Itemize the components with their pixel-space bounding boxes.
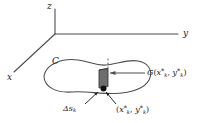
g-close-paren: ): [183, 68, 186, 77]
z-axis-label: z: [47, 2, 52, 11]
pt-close-paren: ): [146, 105, 149, 114]
delta-s-leader-arrow: [85, 92, 98, 104]
delta-s-base: Δs: [63, 104, 73, 113]
sample-point-dot: [101, 86, 107, 92]
delta-s-sub: k: [73, 107, 76, 113]
x-axis-label: x: [7, 73, 12, 82]
x-axis-line: [14, 34, 55, 72]
coordinate-axes: [14, 9, 178, 72]
figure-canvas: z y x C G(x*k, y*k) Δsk (x*k, y*k): [0, 0, 197, 123]
curve-label-c: C: [52, 57, 59, 66]
strip-front-face: [99, 69, 108, 89]
closed-curve-path: [44, 60, 151, 94]
y-axis-label: y: [183, 29, 188, 38]
delta-s-label: Δsk: [63, 105, 76, 114]
g-function-label: G(x*k, y*k): [147, 68, 187, 78]
sample-point-label: (x*k, y*k): [116, 105, 149, 115]
diagram-vector-layer: [0, 0, 197, 123]
shaded-strip: [99, 57, 108, 88]
